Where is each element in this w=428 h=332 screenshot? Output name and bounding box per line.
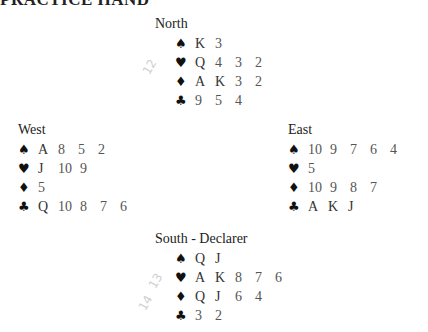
card: 2	[255, 53, 275, 72]
card: 2	[215, 306, 235, 325]
card: 8	[235, 268, 255, 287]
west-label: West	[18, 121, 140, 138]
west-clubs-row: ♣Q10876	[18, 197, 140, 216]
spade-icon: ♠	[175, 249, 195, 268]
west-hearts-row: ♥J109	[18, 159, 140, 178]
east-spades-row: ♠109764	[288, 140, 410, 159]
hand-east: East♠109764♥5♦10987♣AKJ	[288, 121, 410, 216]
card: 3	[195, 306, 215, 325]
south-hearts-row: ♥AK876	[175, 268, 295, 287]
card: 9	[80, 159, 100, 178]
north-diamonds-row: ♦AK32	[175, 72, 275, 91]
pencil-mark: 13	[146, 271, 166, 291]
card: 5	[38, 178, 58, 197]
card: 5	[78, 140, 98, 159]
diamond-icon: ♦	[18, 178, 38, 197]
card: 9	[195, 91, 215, 110]
card: 3	[215, 34, 235, 53]
card: 4	[235, 91, 255, 110]
north-label: North	[155, 15, 275, 32]
card: Q	[195, 249, 215, 268]
card: 7	[350, 140, 370, 159]
north-clubs-row: ♣954	[175, 91, 275, 110]
card: 5	[215, 91, 235, 110]
club-icon: ♣	[175, 91, 195, 110]
diamond-icon: ♦	[288, 178, 308, 197]
spade-icon: ♠	[288, 140, 308, 159]
card: Q	[195, 53, 215, 72]
card: 8	[58, 140, 78, 159]
east-clubs-row: ♣AKJ	[288, 197, 410, 216]
heart-icon: ♥	[18, 159, 38, 178]
card: 3	[235, 53, 255, 72]
card: 6	[370, 140, 390, 159]
card: 4	[390, 140, 410, 159]
card: 7	[255, 268, 275, 287]
heart-icon: ♥	[175, 53, 195, 72]
south-diamonds-row: ♦QJ64	[175, 287, 295, 306]
spade-icon: ♠	[18, 140, 38, 159]
west-spades-row: ♠A852	[18, 140, 140, 159]
card: J	[215, 287, 235, 306]
spade-icon: ♠	[175, 34, 195, 53]
card: A	[195, 268, 215, 287]
north-hearts-row: ♥Q432	[175, 53, 275, 72]
card: 10	[58, 159, 80, 178]
pencil-mark: 12	[140, 57, 160, 77]
east-label: East	[288, 121, 410, 138]
club-icon: ♣	[18, 197, 38, 216]
diamond-icon: ♦	[175, 72, 195, 91]
card: J	[38, 159, 58, 178]
page-title: PRACTICE HAND	[0, 0, 150, 10]
card: 6	[275, 268, 295, 287]
diamond-icon: ♦	[175, 287, 195, 306]
pencil-mark: 14	[136, 293, 156, 313]
card: 10	[308, 140, 330, 159]
card: K	[328, 197, 348, 216]
card: 9	[330, 140, 350, 159]
card: 4	[255, 287, 275, 306]
card: A	[38, 140, 58, 159]
hand-north: North♠K3♥Q432♦AK32♣954	[175, 15, 275, 110]
card: 4	[215, 53, 235, 72]
club-icon: ♣	[288, 197, 308, 216]
card: K	[195, 34, 215, 53]
card: 10	[58, 197, 80, 216]
card: 5	[308, 159, 328, 178]
south-clubs-row: ♣32	[175, 306, 295, 325]
south-spades-row: ♠QJ	[175, 249, 295, 268]
card: J	[215, 249, 235, 268]
east-hearts-row: ♥5	[288, 159, 410, 178]
card: 8	[80, 197, 100, 216]
heart-icon: ♥	[175, 268, 195, 287]
east-diamonds-row: ♦10987	[288, 178, 410, 197]
card: A	[308, 197, 328, 216]
south-label: South - Declarer	[155, 230, 295, 247]
card: K	[215, 72, 235, 91]
card: Q	[38, 197, 58, 216]
card: Q	[195, 287, 215, 306]
north-spades-row: ♠K3	[175, 34, 275, 53]
card: 6	[235, 287, 255, 306]
card: 9	[330, 178, 350, 197]
card: 3	[235, 72, 255, 91]
hand-south: South - Declarer♠QJ♥AK876♦QJ64♣32	[175, 230, 295, 325]
card: K	[215, 268, 235, 287]
card: 2	[98, 140, 118, 159]
card: 7	[100, 197, 120, 216]
card: J	[348, 197, 368, 216]
club-icon: ♣	[175, 306, 195, 325]
hand-west: West♠A852♥J109♦5♣Q10876	[18, 121, 140, 216]
card: A	[195, 72, 215, 91]
heart-icon: ♥	[288, 159, 308, 178]
card: 6	[120, 197, 140, 216]
card: 7	[370, 178, 390, 197]
west-diamonds-row: ♦5	[18, 178, 140, 197]
card: 2	[255, 72, 275, 91]
card: 10	[308, 178, 330, 197]
card: 8	[350, 178, 370, 197]
